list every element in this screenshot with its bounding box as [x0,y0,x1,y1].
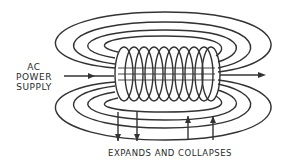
arrow-right-icon [88,73,95,79]
label-line: SUPPLY [10,82,58,92]
arrow-right-icon [258,72,266,78]
field-caption: EXPANDS AND COLLAPSES [100,148,240,158]
label-line: AC [10,62,58,72]
label-line: POWER [10,72,58,82]
power-supply-label: AC POWER SUPPLY [10,62,58,92]
field-lines-top [55,12,271,72]
electromagnet-field-diagram: AC POWER SUPPLY EXPANDS AND COLLAPSES [0,0,303,167]
field-lines-bottom [55,80,271,140]
arrow-down-icon [134,134,140,141]
